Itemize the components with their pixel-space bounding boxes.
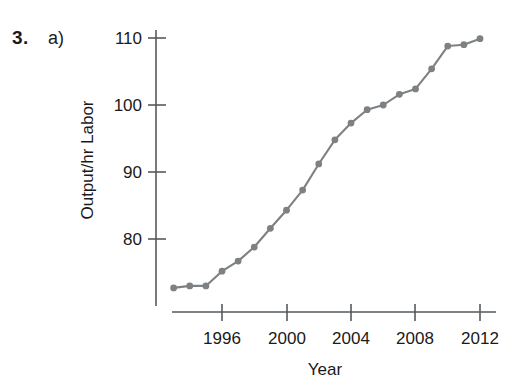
figure-page: 3. a) 110 100 90 80	[0, 0, 507, 383]
data-point-2001	[299, 187, 306, 194]
data-point-2006	[380, 102, 387, 109]
data-point-2009	[428, 65, 435, 72]
data-point-2000	[283, 207, 290, 214]
y-tick-label-100: 100	[114, 96, 142, 115]
data-point-2003	[331, 136, 338, 143]
chart-svg: 110 100 90 80 1996 2000 2004 2008 2012 Y…	[0, 0, 507, 383]
y-axis-ticks	[148, 38, 166, 239]
data-point-1994	[186, 283, 193, 290]
data-point-1995	[202, 283, 209, 290]
x-tick-label-2000: 2000	[268, 329, 306, 348]
y-axis-title: Output/hr Labor	[78, 100, 97, 219]
data-point-2012	[477, 35, 484, 42]
x-axis-title: Year	[308, 360, 343, 379]
x-tick-label-2012: 2012	[461, 329, 499, 348]
y-tick-label-80: 80	[123, 230, 142, 249]
line-chart: 110 100 90 80 1996 2000 2004 2008 2012 Y…	[0, 0, 507, 383]
data-point-2010	[444, 43, 451, 50]
data-point-1997	[235, 258, 242, 265]
data-point-1998	[251, 244, 258, 251]
x-tick-label-2004: 2004	[332, 329, 370, 348]
series-markers	[170, 35, 483, 291]
data-point-1996	[219, 268, 226, 275]
data-point-1993	[170, 285, 177, 292]
x-tick-label-1996: 1996	[203, 329, 241, 348]
data-point-2008	[412, 86, 419, 93]
data-point-2011	[460, 41, 467, 48]
series-line-output-per-hour	[174, 39, 480, 288]
y-tick-label-110: 110	[115, 29, 142, 48]
data-point-2005	[364, 106, 371, 113]
x-tick-label-2008: 2008	[396, 329, 434, 348]
data-point-2007	[396, 91, 403, 98]
y-tick-label-90: 90	[123, 163, 142, 182]
data-point-1999	[267, 225, 274, 232]
data-point-2002	[315, 161, 322, 168]
data-point-2004	[348, 120, 355, 127]
